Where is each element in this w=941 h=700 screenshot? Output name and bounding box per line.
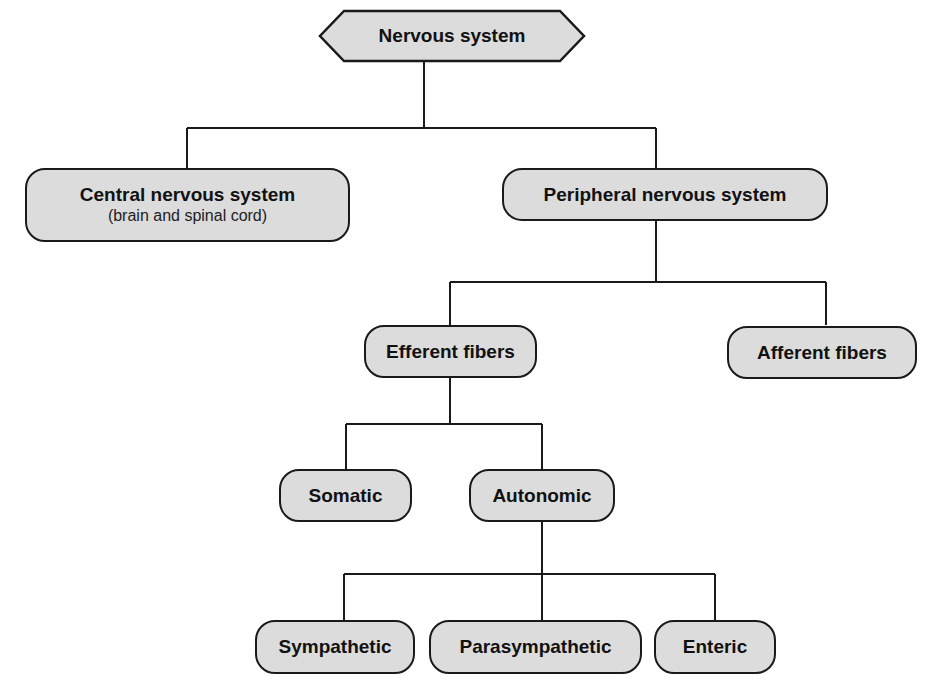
node-sympathetic: Sympathetic	[255, 620, 415, 674]
node-label: Peripheral nervous system	[544, 184, 787, 206]
node-sublabel: (brain and spinal cord)	[108, 206, 267, 226]
edge-root-children	[187, 61, 656, 168]
node-label: Nervous system	[379, 25, 526, 47]
node-label: Sympathetic	[279, 636, 392, 658]
node-label: Afferent fibers	[757, 342, 887, 364]
edge-efferent-children	[346, 377, 542, 469]
edge-pns-children	[450, 220, 826, 325]
node-parasympathetic: Parasympathetic	[429, 620, 642, 674]
node-enteric: Enteric	[654, 620, 776, 674]
node-label: Enteric	[683, 636, 747, 658]
node-peripheral-nervous-system: Peripheral nervous system	[502, 168, 828, 221]
node-label: Somatic	[309, 485, 383, 507]
node-afferent-fibers: Afferent fibers	[727, 326, 917, 379]
node-autonomic: Autonomic	[469, 469, 615, 522]
node-somatic: Somatic	[279, 469, 412, 522]
node-label: Efferent fibers	[386, 341, 515, 363]
edge-autonomic-children	[344, 521, 715, 620]
node-label: Central nervous system	[80, 184, 295, 206]
node-label: Autonomic	[492, 485, 591, 507]
node-nervous-system: Nervous system	[322, 11, 582, 61]
node-label: Parasympathetic	[459, 636, 611, 658]
node-efferent-fibers: Efferent fibers	[364, 325, 537, 378]
node-central-nervous-system: Central nervous system (brain and spinal…	[25, 168, 350, 242]
